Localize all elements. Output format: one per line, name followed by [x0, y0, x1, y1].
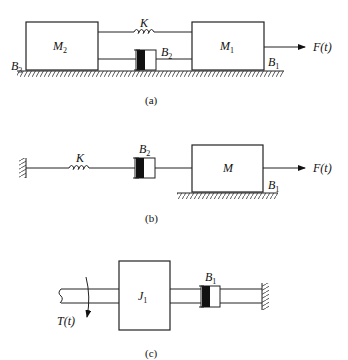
caption-a: (a): [145, 94, 158, 107]
spring-k-label: K: [75, 151, 85, 165]
friction-b1-label: B1: [268, 55, 279, 71]
torque-label: T(t): [57, 314, 75, 328]
panel-c: T(t) J1 B1 (c): [57, 261, 269, 360]
damper-b1-label: B1: [205, 270, 216, 286]
damper-b2-label: B2: [161, 45, 172, 61]
panel-b: K B2 M B1 F(t) (b): [19, 142, 332, 225]
damper-b2: [133, 158, 192, 178]
force-label: F(t): [312, 40, 332, 54]
wall-hatch: [262, 283, 269, 310]
damper-b1: [199, 286, 220, 307]
panel-a: M2 M1 K B2 B3 B1 F(t) (a): [11, 16, 332, 107]
friction-b3-label: B3: [11, 59, 22, 75]
spring-k-label: K: [139, 16, 149, 30]
ground-hatch: [17, 71, 284, 77]
force-label: F(t): [312, 161, 332, 175]
spring-k: [26, 166, 135, 170]
damper-b2: [98, 50, 192, 70]
damper-b2-label: B2: [139, 142, 150, 158]
friction-b1-label: B1: [268, 178, 279, 194]
ground-hatch: [177, 193, 278, 199]
mechanical-systems-figure: M2 M1 K B2 B3 B1 F(t) (a): [0, 0, 348, 360]
spring-k: [98, 30, 192, 34]
torque-arrow: [86, 277, 89, 317]
caption-c: (c): [145, 347, 158, 360]
mass-m-label: M: [222, 161, 234, 175]
caption-b: (b): [145, 212, 158, 225]
wall-hatch: [19, 158, 26, 178]
